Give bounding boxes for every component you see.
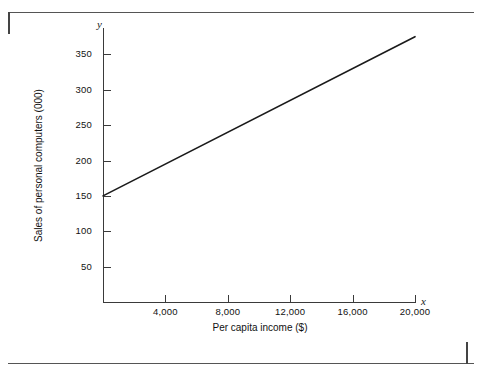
line-chart: y x 50100150200250300350 4,0008,00012,00… [0, 0, 481, 375]
y-axis-title: Sales of personal computers (000) [33, 66, 44, 266]
series-layer [0, 0, 481, 375]
x-axis-title: Per capita income ($) [140, 322, 380, 333]
series-line-sales [103, 37, 415, 196]
figure-page: y x 50100150200250300350 4,0008,00012,00… [0, 0, 481, 375]
